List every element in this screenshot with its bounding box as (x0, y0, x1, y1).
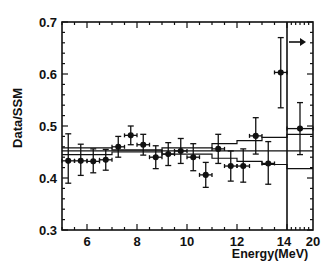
y-tick-label: 0.3 (39, 223, 57, 238)
y-axis-label: Data/SSM (10, 88, 25, 148)
x-tick-label: 6 (83, 234, 90, 249)
y-tick-label: 0.5 (39, 119, 57, 134)
x-axis-label: Energy(MeV) (232, 247, 308, 261)
x-tick-label: 10 (180, 234, 194, 249)
y-tick-label: 0.7 (39, 15, 57, 30)
y-tick-labels: 0.30.40.50.60.7 (39, 15, 58, 238)
chart: 0.30.40.50.60.7 6810121420 Data/SSM Ener… (0, 0, 335, 272)
y-tick-label: 0.4 (39, 171, 58, 186)
plot-area (62, 22, 313, 230)
x-tick-label: 8 (133, 234, 140, 249)
y-tick-label: 0.6 (39, 67, 57, 82)
